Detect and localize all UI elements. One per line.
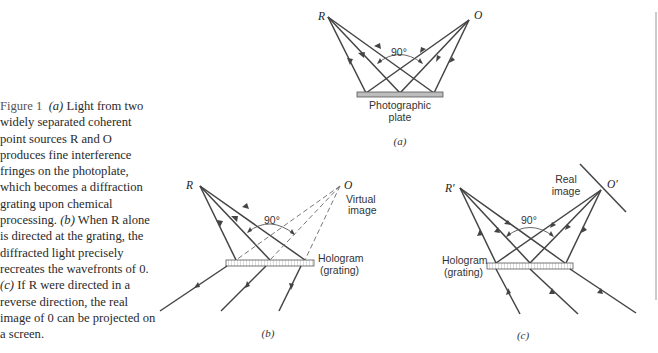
panel-c-label: (c) bbox=[517, 329, 530, 342]
virtual-label-line2: image bbox=[348, 204, 377, 216]
panel-a: R O 90° Photographic plate (a) bbox=[317, 9, 483, 148]
angle-label: 90° bbox=[521, 214, 537, 226]
photographic-plate bbox=[357, 92, 443, 97]
hologram-diagram: R O 90° Photographic plate (a) R O Virtu… bbox=[0, 0, 658, 353]
arrow-icon bbox=[358, 52, 365, 58]
panel-b: R O Virtual image 90° Hologram (grating)… bbox=[160, 179, 377, 340]
hologram-label-line1: Hologram bbox=[318, 252, 364, 264]
angle-label: 90° bbox=[264, 214, 280, 226]
arrow-icon bbox=[194, 282, 200, 288]
arrow-icon bbox=[242, 203, 249, 209]
panel-c: R′ O′ Real image 90° Hologram (grating) bbox=[442, 164, 636, 342]
hologram-label-line1: Hologram bbox=[442, 254, 488, 266]
arrow-icon bbox=[436, 55, 441, 62]
panel-b-label: (b) bbox=[262, 327, 275, 340]
panel-a-label: (a) bbox=[394, 135, 407, 148]
hologram-label-line2: (grating) bbox=[320, 264, 359, 276]
source-o-prime-label: O′ bbox=[607, 178, 618, 190]
plate-label-line2: plate bbox=[389, 111, 412, 123]
plate-label-line1: Photographic bbox=[369, 99, 431, 111]
source-r-prime-label: R′ bbox=[444, 182, 455, 194]
source-r-label: R bbox=[317, 10, 325, 22]
hologram-grating bbox=[487, 263, 573, 269]
hologram-grating bbox=[226, 260, 314, 266]
arrow-icon bbox=[374, 43, 381, 49]
hologram-label-line2: (grating) bbox=[444, 266, 483, 278]
source-o-label: O bbox=[474, 9, 483, 21]
angle-label: 90° bbox=[391, 46, 407, 58]
source-r-label: R bbox=[185, 179, 193, 191]
real-label-line1: Real bbox=[555, 173, 577, 185]
real-label-line2: image bbox=[552, 185, 581, 197]
source-o-label: O bbox=[344, 179, 353, 191]
